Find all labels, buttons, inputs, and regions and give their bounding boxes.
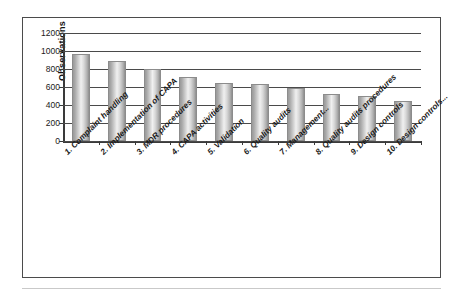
y-tick-mark bbox=[59, 69, 63, 70]
figure-frame: Observations 120010008006004002000 1. Co… bbox=[22, 17, 441, 278]
x-tick-mark bbox=[170, 141, 171, 145]
x-tick-mark bbox=[135, 141, 136, 145]
y-tick-mark bbox=[59, 87, 63, 88]
y-axis-tick-labels: 120010008006004002000 bbox=[23, 33, 60, 142]
x-tick-mark bbox=[278, 141, 279, 145]
y-tick-label: 1200 bbox=[41, 29, 60, 38]
y-tick-mark bbox=[59, 141, 63, 142]
y-tick-label: 200 bbox=[46, 119, 60, 128]
x-tick-mark bbox=[385, 141, 386, 145]
y-tick-mark bbox=[59, 51, 63, 52]
x-tick-mark bbox=[99, 141, 100, 145]
gridline bbox=[63, 51, 421, 52]
x-tick-mark bbox=[349, 141, 350, 145]
y-tick-mark bbox=[59, 105, 63, 106]
x-tick-mark bbox=[242, 141, 243, 145]
x-tick-mark bbox=[206, 141, 207, 145]
x-tick-mark bbox=[314, 141, 315, 145]
gridline bbox=[63, 33, 421, 34]
footer-divider bbox=[22, 288, 441, 289]
x-tick-mark bbox=[421, 141, 422, 145]
y-tick-mark bbox=[59, 33, 63, 34]
y-tick-label: 400 bbox=[46, 101, 60, 110]
y-tick-mark bbox=[59, 123, 63, 124]
y-tick-label: 800 bbox=[46, 65, 60, 74]
y-tick-label: 1000 bbox=[41, 47, 60, 56]
y-tick-label: 600 bbox=[46, 83, 60, 92]
